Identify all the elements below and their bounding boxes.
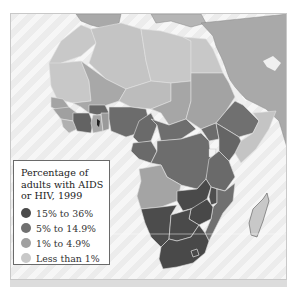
legend-label: 1% to 4.9% xyxy=(36,238,90,249)
legend-label: 15% to 36% xyxy=(36,208,93,219)
legend-item: 1% to 4.9% xyxy=(21,236,104,251)
country-cote-divoire xyxy=(73,113,93,133)
legend-label: Less than 1% xyxy=(36,253,100,264)
legend-item: 15% to 36% xyxy=(21,206,104,221)
legend-title-line: or HIV, 1999 xyxy=(21,190,104,202)
legend-label: 5% to 14.9% xyxy=(36,223,96,234)
legend-title: Percentage of adults with AIDS or HIV, 1… xyxy=(21,167,104,202)
bottom-band xyxy=(10,280,287,287)
country-malawi xyxy=(209,187,217,205)
legend-item: 5% to 14.9% xyxy=(21,221,104,236)
legend-title-line: Percentage of xyxy=(21,167,104,179)
legend-title-line: adults with AIDS xyxy=(21,179,104,191)
legend-swatch-icon xyxy=(21,238,31,248)
legend-item: Less than 1% xyxy=(21,251,104,266)
legend-swatch-icon xyxy=(21,253,31,263)
country-madagascar xyxy=(249,193,269,237)
legend: Percentage of adults with AIDS or HIV, 1… xyxy=(13,160,110,265)
legend-swatch-icon xyxy=(21,223,31,233)
legend-swatch-icon xyxy=(21,208,31,218)
europe-land-east xyxy=(151,14,206,27)
